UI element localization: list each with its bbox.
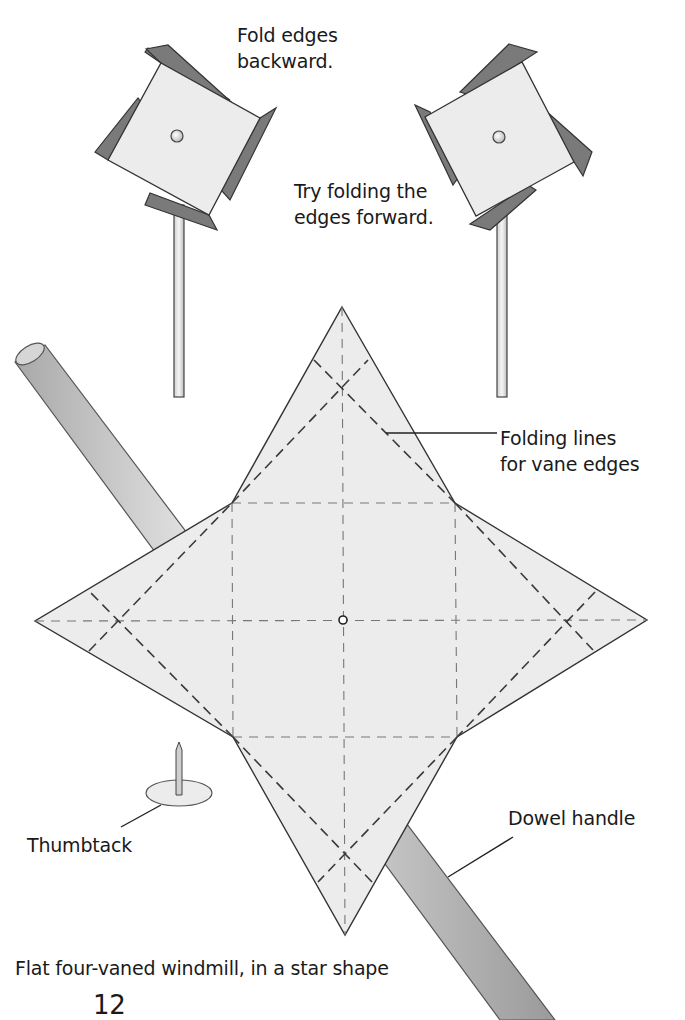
- thumbtack: [146, 742, 212, 806]
- label-thumbtack: Thumbtack: [27, 832, 132, 858]
- label-fold-forward: Try folding the edges forward.: [294, 178, 434, 230]
- center-hole: [339, 616, 347, 624]
- pinwheel-square: [108, 63, 260, 215]
- pinwheel-stick: [497, 215, 507, 397]
- label-fold-backward: Fold edges backward.: [237, 22, 338, 74]
- page-number: 12: [93, 990, 126, 1020]
- label-line: Folding lines: [500, 425, 639, 451]
- leader-thumbtack: [121, 805, 161, 827]
- pinwheel-backward: [95, 45, 276, 397]
- pinwheel-stick: [174, 205, 184, 397]
- label-line: backward.: [237, 48, 338, 74]
- figure-caption: Flat four-vaned windmill, in a star shap…: [15, 955, 389, 981]
- label-line: Try folding the: [294, 178, 434, 204]
- leader-dowel: [448, 837, 513, 877]
- pin-head: [171, 130, 183, 142]
- label-line: Fold edges: [237, 22, 338, 48]
- pinwheel-forward: [415, 44, 592, 397]
- pin-head: [493, 131, 505, 143]
- label-line: for vane edges: [500, 451, 639, 477]
- windmill-illustration: [0, 0, 685, 1020]
- label-dowel-handle: Dowel handle: [508, 805, 635, 831]
- label-folding-lines: Folding lines for vane edges: [500, 425, 639, 477]
- label-line: edges forward.: [294, 204, 434, 230]
